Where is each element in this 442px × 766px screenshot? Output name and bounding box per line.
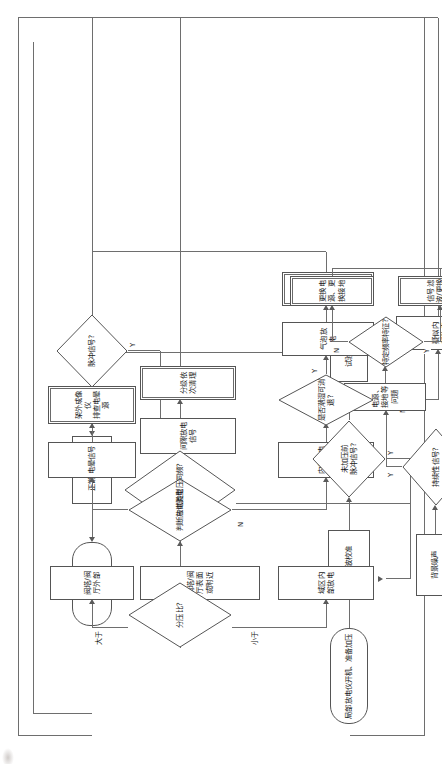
edge-corona-to-fix bbox=[92, 426, 93, 442]
node-corona-signal: 电晕信号 bbox=[48, 442, 136, 478]
edge-label-decpulse-y: Y bbox=[130, 342, 137, 348]
node-dec-prepulse-label: 未加压前 脉冲信号? bbox=[340, 443, 358, 475]
edge-decprepulse-y-v2 bbox=[386, 578, 410, 579]
edge-ratio-greater-h bbox=[92, 602, 93, 628]
node-start: 局部放电仪开机、准备加压 bbox=[330, 628, 368, 724]
edge-gap-to-fix bbox=[180, 402, 181, 418]
node-dec-fixedfreq-top-label: 特定频率特征? bbox=[381, 319, 390, 366]
edge-vent-return bbox=[326, 252, 327, 272]
scan-smudge bbox=[2, 748, 14, 764]
edge-noise-to-deccontinuous bbox=[435, 508, 436, 534]
node-dec-humid: 是否潮湿可消退? bbox=[278, 374, 374, 426]
node-dec-fixedfreq-top: 特定频率特征? bbox=[348, 316, 424, 368]
edge-label-ratio-less: 小于 bbox=[252, 630, 259, 646]
flowchart-canvas: 局部放电仪开机、准备加压 方波校准 未加压前 脉冲信号? N 试验加压 Y 脉冲… bbox=[0, 0, 442, 766]
edge-deccontinuous-y-v bbox=[386, 466, 402, 467]
edge-label-ff-top-y: Y bbox=[424, 348, 431, 354]
edge-remedy-return-v bbox=[332, 268, 442, 269]
edge-dechumid-y bbox=[326, 358, 327, 374]
node-gap-signal: 间隙放电信号 bbox=[140, 418, 236, 454]
edge-label-ratio-greater: 大于 bbox=[96, 630, 103, 646]
edge-remedy-return-h1 bbox=[332, 269, 333, 276]
edge-dectype-down-v bbox=[232, 509, 326, 510]
node-inner-area: 域区内部放电 bbox=[278, 566, 374, 600]
edge-return-outer-top2-left bbox=[33, 713, 92, 714]
edge-remedy-return-h2 bbox=[440, 269, 441, 276]
edge-ff-top-y-v bbox=[424, 341, 440, 342]
edge-ff-top-n-v bbox=[332, 341, 348, 342]
edge-return-outer-bottom bbox=[424, 18, 425, 736]
edge-return-outer-top bbox=[18, 18, 19, 736]
edge-gap-fix-return bbox=[180, 18, 181, 366]
arrow-decprepulse-y bbox=[378, 576, 383, 582]
edge-label-deccontinuous-y: Y bbox=[388, 472, 395, 478]
node-corona-fix: 架外成像仪 排查电晕源 bbox=[48, 386, 136, 424]
edge-bubble-to-vent bbox=[326, 308, 327, 322]
edge-ratio-less-h bbox=[326, 602, 327, 628]
node-filter-band: 信号滤波/更换频带 bbox=[398, 276, 442, 306]
edge-ff-top-n-h bbox=[332, 308, 333, 342]
node-outside: 阀塔/阀厅外部 bbox=[50, 566, 134, 600]
edge-ff-top-y-h bbox=[440, 308, 441, 342]
edge-return-outer-bottom-left bbox=[350, 735, 424, 736]
edge-vent-return-v bbox=[92, 251, 326, 252]
node-replace-power: 更换电源、更换接地 bbox=[290, 276, 374, 306]
edge-decpulse-y-v bbox=[128, 350, 160, 351]
edge-ratio-greater-v bbox=[92, 627, 128, 628]
node-dec-pulse: 脉冲信号? bbox=[56, 314, 128, 388]
edge-label-ff-top-n: N bbox=[334, 347, 341, 354]
node-dec-humid-label: 是否潮湿可消退? bbox=[317, 376, 335, 424]
edge-deccontinuous-y-h bbox=[386, 413, 387, 467]
node-gap-fix: 分级依次清理 bbox=[140, 366, 236, 400]
node-background-noise: 背景噪声 bbox=[416, 534, 442, 596]
edge-label-decprepulse-y: Y bbox=[388, 450, 395, 456]
node-dec-ratio: 分压比? bbox=[128, 582, 232, 648]
node-dec-prepulse: 未加压前 脉冲信号? bbox=[312, 420, 386, 498]
edge-ratio-less-v bbox=[232, 627, 326, 628]
edge-suspect-return bbox=[438, 18, 439, 316]
edge-label-samefreq-n: N bbox=[238, 521, 245, 528]
edge-return-outer-top2 bbox=[33, 42, 34, 714]
node-dec-pulse-label: 脉冲信号? bbox=[87, 335, 96, 367]
edge-power-to-dec bbox=[385, 369, 386, 383]
edge-return-outer-bottom-right bbox=[18, 17, 424, 18]
edge-calibrate-to-decprepulse bbox=[349, 500, 350, 530]
node-dec-type-label: 判断放电类型 bbox=[175, 489, 184, 532]
edge-samefreq-n-v bbox=[236, 503, 410, 504]
node-dec-continuous-label: 持续性信号? bbox=[431, 447, 440, 487]
edge-dechumid-n-h bbox=[438, 352, 439, 400]
edge-dectype-up-v bbox=[92, 509, 128, 510]
edge-surface-to-dectype bbox=[180, 544, 181, 566]
node-dec-ratio-label: 分压比? bbox=[175, 602, 184, 627]
edge-return-outer-top-left bbox=[18, 735, 92, 736]
node-dec-continuous: 持续性信号? bbox=[402, 428, 442, 506]
edge-dectype-up-h bbox=[92, 480, 93, 510]
edge-suspect-return-v bbox=[424, 17, 438, 18]
